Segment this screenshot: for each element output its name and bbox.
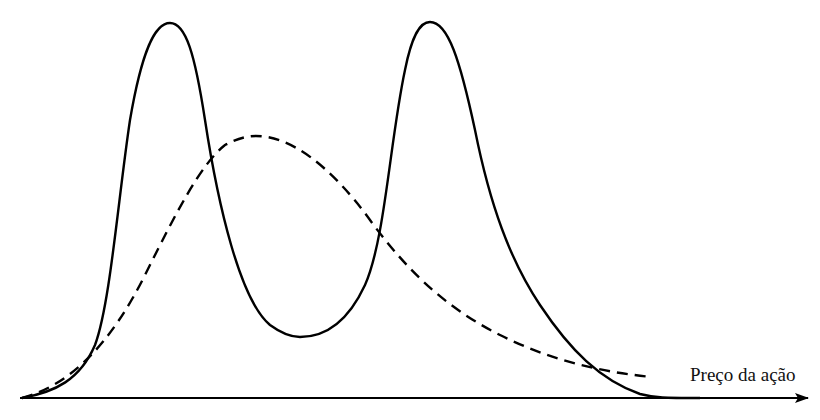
- x-axis-label: Preço da ação: [690, 364, 796, 386]
- solid-curve-bimodal: [22, 22, 700, 398]
- dashed-curve-unimodal: [22, 136, 652, 398]
- distribution-figure: [0, 0, 820, 420]
